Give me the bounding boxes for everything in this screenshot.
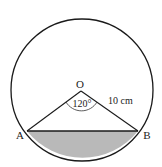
point-a-label: A: [16, 129, 24, 141]
angle-label: 120°: [73, 98, 92, 109]
radius-oa: [27, 91, 81, 131]
diagram-canvas: O 120° 10 cm A B: [0, 0, 162, 167]
point-b-label: B: [143, 129, 150, 141]
center-label: O: [76, 78, 84, 90]
circle-segment-diagram: O 120° 10 cm A B: [0, 0, 162, 167]
shaded-segment: [27, 131, 138, 158]
radius-length-label: 10 cm: [108, 95, 133, 106]
